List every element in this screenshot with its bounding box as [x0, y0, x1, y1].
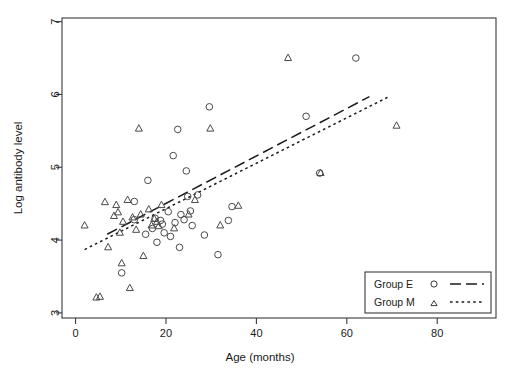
y-axis: 34567: [49, 19, 62, 316]
x-tick-label: 20: [160, 327, 172, 339]
x-axis: 020406080: [73, 318, 444, 339]
y-tick-label: 5: [49, 164, 61, 170]
x-tick-label: 60: [341, 327, 353, 339]
legend[interactable]: Group E Group M: [365, 272, 491, 313]
x-tick-label: 40: [250, 327, 262, 339]
y-tick-label: 4: [49, 237, 61, 243]
y-axis-title: Log antibody level: [12, 122, 24, 215]
scatter-plot-figure: 34567 020406080 Log antibody level Age (…: [0, 0, 519, 371]
y-tick-label: 3: [49, 310, 61, 316]
plot-canvas: 34567 020406080 Log antibody level Age (…: [0, 0, 519, 371]
x-axis-title: Age (months): [225, 351, 294, 363]
y-tick-label: 7: [49, 19, 61, 25]
legend-item-group-m-label: Group M: [374, 296, 415, 308]
x-tick-label: 80: [431, 327, 443, 339]
x-tick-label: 0: [73, 327, 79, 339]
legend-item-group-e-label: Group E: [374, 278, 413, 290]
y-tick-label: 6: [49, 91, 61, 97]
